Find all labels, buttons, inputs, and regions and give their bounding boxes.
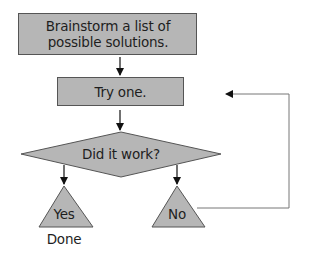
brainstorm-label: Brainstorm a list of possible solutions.: [30, 18, 186, 50]
loop-back-line: [197, 94, 289, 208]
no-label: No: [157, 206, 197, 222]
try-one-label: Try one.: [57, 84, 184, 100]
yes-label: Yes: [44, 206, 84, 222]
done-label: Done: [36, 231, 92, 247]
decision-label: Did it work?: [71, 146, 171, 162]
